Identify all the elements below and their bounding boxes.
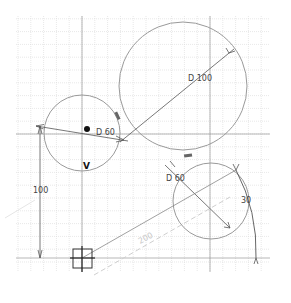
point-marker-icon[interactable] bbox=[84, 126, 90, 132]
tangent-constraints bbox=[114, 112, 192, 158]
arrow-icon bbox=[254, 258, 258, 264]
dimension-label-30: 30 bbox=[241, 196, 251, 205]
circle-large[interactable] bbox=[119, 22, 247, 150]
arrow-icon bbox=[226, 48, 235, 53]
dimension-label-d60-left: D 60 bbox=[96, 128, 115, 137]
arrow-icon bbox=[233, 164, 239, 170]
dimension-label-d100: D 100 bbox=[188, 74, 212, 83]
dimension-label-d60-lower: D 60 bbox=[166, 174, 185, 183]
dimension-label-100: 100 bbox=[33, 186, 48, 195]
dimension-label-200: 200 bbox=[137, 231, 155, 246]
vertex-label-v: V bbox=[83, 161, 90, 171]
arrow-icon bbox=[170, 161, 230, 228]
origin-marker[interactable] bbox=[70, 246, 95, 272]
sketch-canvas[interactable]: 200 D 60 D 100 D 60 30 100 bbox=[0, 0, 291, 303]
arc-30[interactable] bbox=[236, 170, 256, 258]
circles bbox=[44, 22, 249, 239]
diameter-dimensions: D 60 D 100 D 60 bbox=[36, 48, 235, 228]
tangent-constraint-icon[interactable] bbox=[184, 153, 192, 157]
